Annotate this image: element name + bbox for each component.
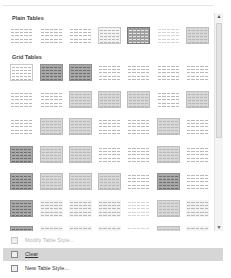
table-style-thumbnail[interactable] [157, 146, 180, 163]
scroll-down-button[interactable]: ▼ [215, 224, 223, 231]
table-style-thumbnail[interactable] [127, 173, 150, 190]
table-style-thumbnail[interactable] [186, 91, 209, 108]
table-style-menu: Modify Table Style... Clear New Table St… [3, 234, 223, 276]
table-style-thumbnail[interactable] [40, 226, 63, 231]
table-style-thumbnail[interactable] [69, 27, 92, 44]
gallery-scrollbar[interactable]: ▲ ▼ [214, 13, 223, 231]
table-style-thumbnail[interactable] [186, 27, 209, 44]
table-style-thumbnail[interactable] [157, 173, 180, 190]
table-style-thumbnail[interactable] [10, 146, 33, 163]
table-style-thumbnail[interactable] [40, 146, 63, 163]
table-style-thumbnail[interactable] [186, 64, 209, 81]
table-styles-dropdown: Plain TablesGrid Tables ▲ ▼ Modify Table… [0, 0, 231, 278]
table-style-thumbnail[interactable] [98, 226, 121, 231]
table-style-thumbnail[interactable] [69, 226, 92, 231]
chevron-up-icon: ▲ [217, 13, 222, 19]
table-style-thumbnail[interactable] [10, 200, 33, 217]
section-title: Plain Tables [12, 15, 44, 21]
table-styles-gallery: Plain TablesGrid Tables [3, 5, 213, 231]
table-style-thumbnail[interactable] [127, 200, 150, 217]
table-style-thumbnail[interactable] [157, 200, 180, 217]
table-style-thumbnail[interactable] [98, 146, 121, 163]
table-style-thumbnail[interactable] [127, 64, 150, 81]
table-style-thumbnail[interactable] [98, 118, 121, 135]
new-table-style-item[interactable]: New Table Style... [3, 262, 223, 275]
table-style-thumbnail[interactable] [40, 64, 63, 81]
table-style-thumbnail[interactable] [157, 91, 180, 108]
table-style-thumbnail[interactable] [98, 173, 121, 190]
table-style-thumbnail[interactable] [10, 64, 33, 81]
table-style-thumbnail[interactable] [98, 200, 121, 217]
table-style-thumbnail[interactable] [98, 91, 121, 108]
menu-item-label: New Table Style... [25, 265, 69, 271]
table-style-thumbnail[interactable] [186, 226, 209, 231]
section-title: Grid Tables [12, 54, 42, 60]
table-style-thumbnail[interactable] [10, 173, 33, 190]
table-style-thumbnail[interactable] [40, 200, 63, 217]
menu-item-label: Clear [25, 251, 38, 257]
new-table-style-icon [11, 265, 18, 272]
modify-table-style-icon [11, 237, 18, 244]
table-style-thumbnail[interactable] [127, 146, 150, 163]
table-style-thumbnail[interactable] [69, 118, 92, 135]
table-style-thumbnail[interactable] [40, 91, 63, 108]
scroll-thumb[interactable] [216, 23, 222, 138]
table-style-thumbnail[interactable] [98, 64, 121, 81]
table-style-thumbnail[interactable] [69, 146, 92, 163]
chevron-down-icon: ▼ [217, 224, 222, 230]
clear-table-icon [11, 251, 18, 258]
table-style-thumbnail[interactable] [10, 226, 33, 231]
table-style-thumbnail[interactable] [40, 173, 63, 190]
table-style-thumbnail[interactable] [186, 200, 209, 217]
clear-item[interactable]: Clear [3, 248, 223, 261]
table-style-thumbnail[interactable] [127, 91, 150, 108]
table-style-thumbnail[interactable] [40, 118, 63, 135]
table-style-thumbnail[interactable] [157, 118, 180, 135]
scroll-up-button[interactable]: ▲ [215, 13, 223, 20]
table-style-thumbnail[interactable] [157, 226, 180, 231]
table-style-thumbnail[interactable] [98, 27, 121, 44]
table-style-thumbnail[interactable] [10, 27, 33, 44]
table-style-thumbnail[interactable] [69, 173, 92, 190]
table-style-thumbnail[interactable] [157, 27, 180, 44]
table-style-thumbnail[interactable] [127, 118, 150, 135]
table-style-thumbnail[interactable] [10, 91, 33, 108]
table-style-thumbnail[interactable] [10, 118, 33, 135]
table-style-thumbnail[interactable] [40, 27, 63, 44]
table-style-thumbnail[interactable] [69, 64, 92, 81]
menu-item-label: Modify Table Style... [25, 237, 74, 243]
table-style-thumbnail[interactable] [186, 173, 209, 190]
modify-table-style-item[interactable]: Modify Table Style... [3, 234, 223, 247]
table-style-thumbnail[interactable] [69, 200, 92, 217]
table-style-thumbnail[interactable] [127, 27, 150, 44]
table-style-thumbnail[interactable] [186, 118, 209, 135]
table-style-thumbnail[interactable] [157, 64, 180, 81]
table-style-thumbnail[interactable] [69, 91, 92, 108]
table-style-thumbnail[interactable] [127, 226, 150, 231]
table-style-thumbnail[interactable] [186, 146, 209, 163]
